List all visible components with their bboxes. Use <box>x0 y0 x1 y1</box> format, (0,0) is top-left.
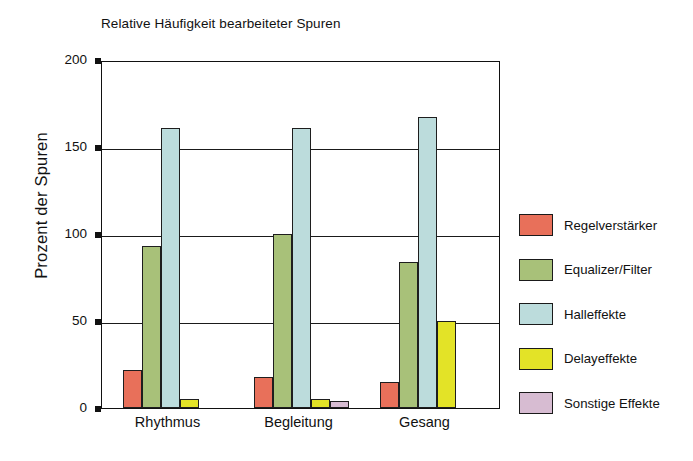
bar <box>180 399 199 408</box>
bar <box>161 128 180 408</box>
bar <box>380 382 399 408</box>
y-tick-label: 200 <box>64 52 87 67</box>
legend-item: Halleffekte <box>519 301 693 327</box>
legend-label: Sonstige Effekte <box>564 396 660 411</box>
legend-item: Sonstige Effekte <box>519 390 693 416</box>
chart-title: Relative Häufigkeit bearbeiteter Spuren <box>101 16 341 31</box>
bar <box>418 117 437 408</box>
y-tick-label: 100 <box>64 226 87 241</box>
y-tick-label: 0 <box>79 400 87 415</box>
legend-label: Regelverstärker <box>564 218 657 233</box>
bar <box>142 246 161 408</box>
x-axis-label-gesang: Gesang <box>399 414 450 430</box>
x-axis-label-rhythmus: Rhythmus <box>135 414 200 430</box>
x-axis-label-begleitung: Begleitung <box>264 414 333 430</box>
bar <box>123 370 142 408</box>
legend-label: Equalizer/Filter <box>564 262 652 277</box>
legend-swatch-icon <box>519 259 553 281</box>
legend-item: Delayeffekte <box>519 346 693 372</box>
plot-inner <box>102 62 499 408</box>
legend-item: Equalizer/Filter <box>519 257 693 283</box>
y-tick-label: 50 <box>72 313 87 328</box>
plot-area <box>101 61 500 409</box>
legend-swatch-icon <box>519 392 553 414</box>
bar <box>273 234 292 408</box>
bar <box>437 321 456 408</box>
bar <box>311 399 330 408</box>
legend-label: Delayeffekte <box>564 351 637 366</box>
bar-chart: Relative Häufigkeit bearbeiteter Spuren … <box>0 0 693 461</box>
legend-label: Halleffekte <box>564 307 626 322</box>
x-axis-labels: RhythmusBegleitungGesang <box>101 414 500 444</box>
legend-swatch-icon <box>519 348 553 370</box>
bar <box>399 262 418 408</box>
bar <box>292 128 311 408</box>
y-axis-ticks: 050100150200 <box>0 61 101 409</box>
y-tick-label: 150 <box>64 139 87 154</box>
legend-swatch-icon <box>519 214 553 236</box>
chart-legend: RegelverstärkerEqualizer/FilterHalleffek… <box>519 212 693 435</box>
legend-item: Regelverstärker <box>519 212 693 238</box>
bar <box>254 377 273 408</box>
bar <box>330 401 349 408</box>
legend-swatch-icon <box>519 303 553 325</box>
